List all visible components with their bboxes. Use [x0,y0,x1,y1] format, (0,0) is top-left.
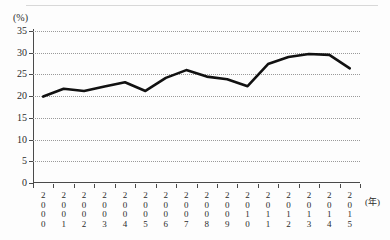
x-tick-mark [237,184,238,188]
x-axis: (年) 200020012002200320042005200620072008… [33,184,360,240]
x-tick-mark [94,184,95,188]
x-tick-label-char: 4 [319,220,339,230]
x-tick-label-char: 5 [135,220,155,230]
x-tick-label: 2007 [176,191,196,229]
x-tick-label: 2008 [197,191,217,229]
x-tick-label: 2014 [319,191,339,229]
x-tick-mark [135,184,136,188]
x-tick-label: 2001 [54,191,74,229]
x-tick-label: 2005 [135,191,155,229]
x-tick-label: 2013 [299,191,319,229]
x-tick-mark [278,184,279,188]
x-tick-label-char: 4 [115,220,135,230]
x-tick-mark [33,184,34,188]
x-tick-label: 2009 [217,191,237,229]
x-tick-label-char: 3 [95,220,115,230]
line-series-svg [33,31,360,183]
x-tick-label: 2010 [238,191,258,229]
x-tick-mark [217,184,218,188]
x-tick-label-char: 2 [278,220,298,230]
y-axis-unit-label: (%) [13,12,28,23]
x-tick-label: 2015 [340,191,360,229]
x-tick-label-char: 1 [258,220,278,230]
x-tick-label-char: 8 [197,220,217,230]
x-tick-label: 2011 [258,191,278,229]
x-tick-mark [319,184,320,188]
y-tick-label: 10 [17,135,27,145]
y-tick-label: 30 [17,48,27,58]
y-tick-label: 5 [22,156,27,166]
x-tick-label-char: 2 [74,220,94,230]
x-tick-label: 2012 [278,191,298,229]
x-tick-mark [360,184,361,188]
x-tick-label: 2004 [115,191,135,229]
x-axis-unit-label: (年) [365,197,380,207]
y-tick-label: 15 [17,113,27,123]
x-tick-label: 2002 [74,191,94,229]
x-tick-label: 2000 [33,191,53,229]
chart-figure: (%) 35302520151050 (年) 20002001200220032… [0,0,390,240]
x-tick-mark [74,184,75,188]
x-tick-label: 2003 [95,191,115,229]
x-tick-label: 2006 [156,191,176,229]
x-tick-label-char: 1 [54,220,74,230]
x-tick-label-char: 0 [33,220,53,230]
x-tick-mark [156,184,157,188]
x-tick-mark [176,184,177,188]
y-tick-label: 0 [22,178,27,188]
page-top-rule [26,5,378,6]
line-series-path [43,54,350,97]
x-tick-mark [197,184,198,188]
x-tick-label-char: 6 [156,220,176,230]
x-tick-label-char: 7 [176,220,196,230]
x-tick-mark [340,184,341,188]
x-tick-label-char: 9 [217,220,237,230]
x-tick-mark [115,184,116,188]
x-tick-label-char: 0 [238,220,258,230]
y-tick-label: 35 [17,26,27,36]
x-tick-label-char: 3 [299,220,319,230]
y-tick-label: 20 [17,91,27,101]
x-tick-label-char: 5 [340,220,360,230]
y-tick-label: 25 [17,69,27,79]
x-tick-mark [258,184,259,188]
plot-area: 35302520151050 [33,31,360,183]
x-tick-mark [53,184,54,188]
x-tick-mark [299,184,300,188]
